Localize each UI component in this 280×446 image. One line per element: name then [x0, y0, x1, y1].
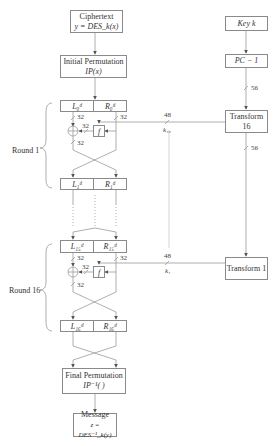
round1-output-left: L₁ᵈ	[61, 179, 93, 189]
round1-bits-left: 32	[77, 113, 84, 121]
ciphertext-formula: y = DES_k(x)	[74, 22, 118, 32]
ciphertext-box: Ciphertext y = DES_k(x)	[70, 10, 123, 33]
round1-input-block: L₀ᵈ R₀ᵈ	[60, 100, 127, 112]
round1-label: Round 1	[12, 146, 39, 155]
message-title: Message	[81, 410, 109, 420]
message-formula: z = DES⁻¹_k(y)	[74, 420, 116, 440]
initial-permutation-title: Initial Permutation	[63, 57, 123, 67]
message-box: Message z = DES⁻¹_k(y)	[73, 413, 117, 437]
round1-input-left: L₀ᵈ	[61, 101, 93, 111]
round1-input-right: R₀ᵈ	[93, 101, 126, 111]
round16-bits-left: 32	[77, 254, 84, 262]
round1-subkey-bits: 48	[164, 111, 171, 119]
round16-bits-right: 32	[120, 254, 127, 262]
round16-input-block: L₁₅ᵈ R₁₅ᵈ	[60, 240, 127, 253]
final-permutation-box: Final Permutation IP⁻¹( )	[62, 368, 126, 394]
final-permutation-formula: IP⁻¹( )	[83, 381, 105, 391]
initial-permutation-box: Initial Permutation IP(x)	[60, 55, 127, 78]
initial-permutation-formula: IP(x)	[85, 67, 101, 77]
round16-output-left: L₁₆ᵈ	[61, 321, 93, 331]
round1-output-block: L₁ᵈ R₁ᵈ	[60, 178, 127, 190]
key-box: Key k	[225, 16, 268, 31]
round16-subkey-bits: 48	[164, 252, 171, 260]
round16-output-right: R₁₆ᵈ	[93, 321, 126, 331]
ciphertext-title: Ciphertext	[80, 12, 114, 22]
transform1-box: Transform 1	[225, 257, 268, 280]
round1-output-right: R₁ᵈ	[93, 179, 126, 189]
key-bits-transform16: 56	[251, 144, 258, 152]
round16-f-function: f	[93, 266, 105, 278]
round1-subkey: k₁₆	[163, 126, 171, 134]
round1-f-function: f	[93, 125, 105, 137]
round16-input-left: L₁₅ᵈ	[61, 241, 93, 252]
round1-bits-right: 32	[120, 113, 127, 121]
key-bits-pc1: 56	[251, 84, 258, 92]
pc1-box: PC − 1	[225, 54, 268, 68]
round16-output-block: L₁₆ᵈ R₁₆ᵈ	[60, 320, 127, 332]
round16-subkey: k₁	[165, 267, 171, 275]
transform16-box: Transform 16	[225, 110, 268, 133]
round16-bits-f: 32	[82, 263, 89, 271]
round16-label: Round 16	[9, 286, 40, 295]
round1-bits-xor: 32	[77, 139, 84, 147]
final-permutation-title: Final Permutation	[65, 371, 123, 381]
round16-input-right: R₁₅ᵈ	[93, 241, 126, 252]
round1-bits-f: 32	[82, 122, 89, 130]
round16-bits-xor: 32	[77, 281, 84, 289]
